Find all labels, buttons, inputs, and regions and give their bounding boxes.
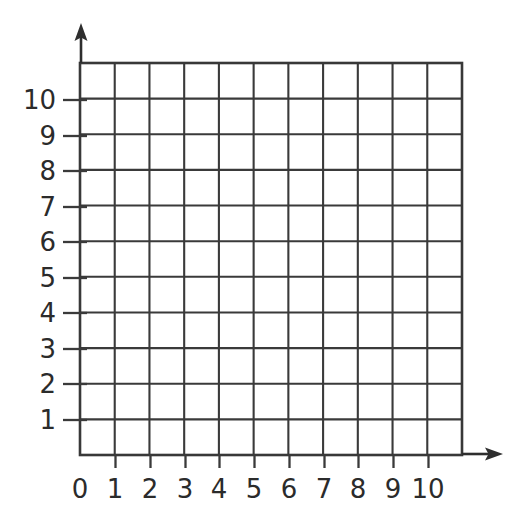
coordinate-grid-figure: 10987654321 012345678910 bbox=[0, 0, 519, 523]
x-axis-tick-label: 2 bbox=[142, 474, 159, 504]
y-axis-tick-label: 4 bbox=[39, 298, 56, 328]
y-axis-tick-label: 3 bbox=[39, 334, 56, 364]
y-axis-tick-label: 5 bbox=[39, 263, 56, 293]
y-axis-tick-label: 7 bbox=[39, 192, 56, 222]
y-axis-tick-label: 10 bbox=[23, 85, 56, 115]
grid-vertical-lines bbox=[115, 63, 428, 455]
y-axis-tick-marks bbox=[63, 100, 87, 420]
y-axis-tick-label: 6 bbox=[39, 227, 56, 257]
x-axis-tick-label: 8 bbox=[350, 474, 367, 504]
grid-horizontal-lines bbox=[80, 99, 462, 420]
y-axis-tick-label: 2 bbox=[39, 369, 56, 399]
x-axis-tick-label: 3 bbox=[177, 474, 194, 504]
x-axis-tick-label: 7 bbox=[316, 474, 333, 504]
y-axis-tick-labels: 10987654321 bbox=[23, 85, 56, 435]
x-axis-tick-label: 9 bbox=[385, 474, 402, 504]
x-axis-tick-label: 5 bbox=[246, 474, 263, 504]
figure-page: 10987654321 012345678910 bbox=[0, 0, 519, 523]
x-axis-tick-label: 6 bbox=[281, 474, 298, 504]
y-axis-tick-label: 8 bbox=[39, 156, 56, 186]
grid-outer-border bbox=[80, 63, 462, 455]
x-axis-tick-labels: 012345678910 bbox=[72, 474, 445, 504]
y-axis-tick-label: 1 bbox=[39, 405, 56, 435]
x-axis-tick-label: 0 bbox=[72, 474, 89, 504]
y-axis-tick-label: 9 bbox=[39, 121, 56, 151]
x-axis-tick-label: 4 bbox=[211, 474, 228, 504]
x-axis-tick-label: 10 bbox=[411, 474, 444, 504]
x-axis-tick-label: 1 bbox=[107, 474, 124, 504]
